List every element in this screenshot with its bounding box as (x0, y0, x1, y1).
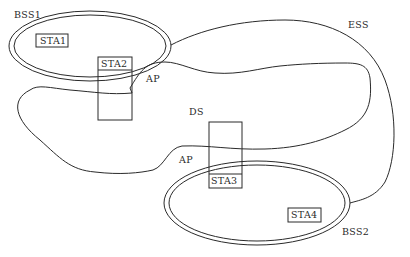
ds-label: DS (189, 106, 204, 117)
station-sta4: STA4 (288, 208, 321, 222)
ds-region (18, 62, 371, 173)
station-sta2-ap: STA2 (98, 57, 132, 120)
bss1-label: BSS1 (14, 9, 41, 20)
sta2-label: STA2 (101, 58, 127, 69)
bss2-ellipse (164, 161, 350, 245)
ap-label-1: AP (145, 73, 160, 84)
sta4-label: STA4 (291, 209, 317, 220)
ap-label-2: AP (178, 154, 193, 165)
station-sta1: STA1 (36, 34, 68, 47)
sta1-label: STA1 (40, 35, 66, 46)
ess-label: ESS (348, 19, 369, 30)
sta3-label: STA3 (211, 175, 237, 186)
station-sta3-ap: STA3 (209, 122, 242, 188)
bss1-ellipse (9, 11, 171, 81)
ess-boundary (171, 20, 394, 203)
ess-diagram: STA1 STA2 STA3 STA4 BSS1 ESS AP DS AP BS… (0, 0, 410, 257)
bss2-label: BSS2 (342, 226, 369, 237)
